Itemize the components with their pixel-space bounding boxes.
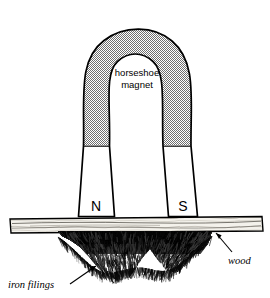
magnet-caption-line2: magnet [121, 79, 153, 90]
iron-filings-label: iron filings [8, 279, 54, 290]
figure-illustration: horseshoe magnet N S [0, 0, 270, 298]
wood-board-surface [10, 217, 263, 234]
iron-filings-mass [56, 230, 215, 284]
wood-board [10, 217, 263, 234]
north-pole-label: N [91, 198, 101, 214]
magnet-diagram-canvas: horseshoe magnet N S [0, 0, 270, 298]
annotation-wood: wood [216, 233, 252, 266]
magnet-caption-line1: horseshoe [115, 67, 159, 78]
south-pole-label: S [178, 198, 187, 214]
annotation-iron-filings: iron filings [8, 266, 96, 290]
wood-label: wood [228, 255, 252, 266]
horseshoe-magnet: horseshoe magnet N S [60, 10, 218, 225]
south-pole-piece [158, 146, 218, 221]
